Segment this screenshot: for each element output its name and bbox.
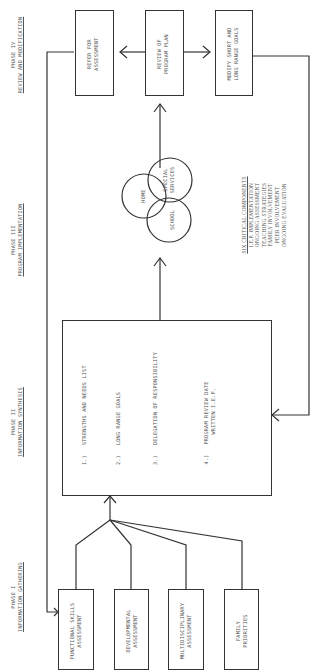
box-line: LONG RANGE GOALS xyxy=(233,14,240,94)
item-number: 4.) xyxy=(203,455,209,465)
box-line: ASSESSMENT xyxy=(132,591,139,671)
phase-label: PHASE I xyxy=(10,552,17,642)
functional-skills-box: FUNCTIONAL SKILLS ASSESSMENT xyxy=(58,589,94,670)
phase-1-header: PHASE I INFORMATION GATHERING xyxy=(10,552,26,642)
box-line: ASSESSMENT xyxy=(76,591,83,671)
box-line: MODIFY SHORT AND xyxy=(226,14,233,94)
multidisciplinary-box: MULTIDISCIPLINARY ASSESSMENT xyxy=(168,589,204,670)
phase-title: INFORMATION GATHERING xyxy=(17,552,24,642)
box-line: FUNCTIONAL SKILLS xyxy=(69,591,76,671)
box-line: ASSESSMENT xyxy=(186,591,193,671)
venn-label-line: SERVICES xyxy=(169,160,176,200)
venn-label-home: HOME xyxy=(140,176,148,216)
component-item: ONGOING EVALUATION xyxy=(281,170,288,260)
phase-3-header: PHASE III PROGRAM IMPLEMENTATION xyxy=(10,195,26,285)
phase-2-header: PHASE II INFORMATION SYNTHESIS xyxy=(10,377,26,467)
box-line: MULTIDISCIPLINARY xyxy=(179,591,186,671)
phase-label: PHASE IV xyxy=(10,10,17,100)
phase-label: PHASE II xyxy=(10,377,17,467)
developmental-box: DEVELOPMENTAL ASSESSMENT xyxy=(114,589,149,670)
review-program-plan-box: REVIEW OF PROGRAM PLAN xyxy=(145,10,184,96)
box-line: FAMILY xyxy=(235,591,242,671)
item-text: LONG RANGE GOALS xyxy=(115,392,121,445)
phase-title: PROGRAM IMPLEMENTATION xyxy=(17,195,24,285)
item-text: STRENGTHS AND NEEDS LIST xyxy=(81,365,87,445)
refer-for-assessment-box: REFER FOR ASSESSMENT xyxy=(75,10,114,96)
synthesis-item-1: 1.) STRENGTHS AND NEEDS LIST xyxy=(81,345,89,465)
box-line: ASSESSMENT xyxy=(93,14,100,94)
item-text-2: WRITTEN I.E.P. xyxy=(210,345,217,465)
box-line: PROGRAM PLAN xyxy=(163,14,170,94)
synthesis-item-4: 4.) PROGRAM REVIEW DATE WRITTEN I.E.P. xyxy=(203,345,218,465)
phase-title: REVIEW AND MODIFICATION xyxy=(17,10,24,100)
item-number: 3.) xyxy=(152,455,158,465)
critical-components-list: SIX CRITICAL COMPONENTS I.E.P. IMPLEMENT… xyxy=(241,170,285,260)
venn-label-line: SPECIAL xyxy=(162,160,169,200)
box-line: PRIORITIES xyxy=(242,591,249,671)
component-item: FAMILY INVOLVEMENT xyxy=(267,170,274,260)
component-item: PEER INVOLVEMENT xyxy=(274,170,281,260)
item-number: 1.) xyxy=(81,455,87,465)
component-item: I.E.P. IMPLEMENTATION xyxy=(248,170,255,260)
component-item: ONGOING ASSESSMENT xyxy=(254,170,261,260)
family-priorities-box: FAMILY PRIORITIES xyxy=(224,589,259,670)
information-synthesis-box: 1.) STRENGTHS AND NEEDS LIST 2.) LONG RA… xyxy=(62,320,272,496)
item-text: PROGRAM REVIEW DATE xyxy=(203,381,209,444)
synthesis-item-3: 3.) DELEGATION OF RESPONSIBILITY xyxy=(152,345,160,465)
venn-label-school: SCHOOL xyxy=(169,200,177,240)
synthesis-item-2: 2.) LONG RANGE GOALS xyxy=(115,345,123,465)
box-line: DEVELOPMENTAL xyxy=(125,591,132,671)
modify-goals-box: MODIFY SHORT AND LONG RANGE GOALS xyxy=(215,10,253,96)
phase-4-header: PHASE IV REVIEW AND MODIFICATION xyxy=(10,10,26,100)
venn-label-special-services: SPECIAL SERVICES xyxy=(162,160,178,200)
item-text: DELEGATION OF RESPONSIBILITY xyxy=(152,352,158,445)
component-item: TEACHING STRATEGIES xyxy=(261,170,268,260)
phase-label: PHASE III xyxy=(10,195,17,285)
box-line: REVIEW OF xyxy=(156,14,163,94)
item-number: 2.) xyxy=(115,455,121,465)
components-heading: SIX CRITICAL COMPONENTS xyxy=(241,170,248,260)
box-line: REFER FOR xyxy=(86,14,93,94)
phase-title: INFORMATION SYNTHESIS xyxy=(17,377,24,467)
